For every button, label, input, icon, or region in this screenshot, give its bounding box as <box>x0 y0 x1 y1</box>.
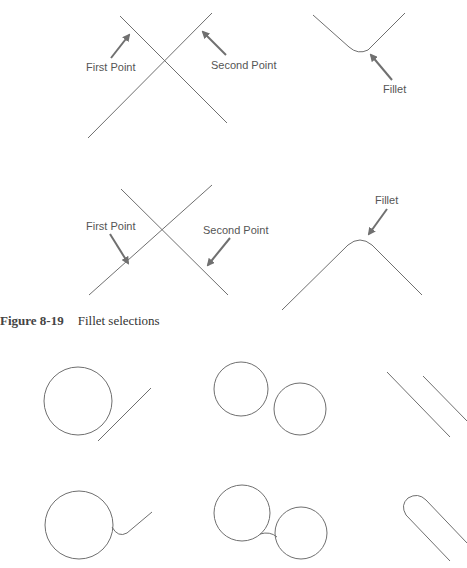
fillet-label: Fillet <box>383 83 406 95</box>
fillet-arrow-icon <box>371 55 392 80</box>
two-circles-after <box>214 485 327 559</box>
second-point-label: Second Point <box>203 224 268 236</box>
first-point-arrow-icon <box>110 234 128 263</box>
first-point-arrow-icon <box>111 35 129 58</box>
fillet-arrow-icon <box>369 209 387 234</box>
crossing-lines-top: First Point Second Point <box>86 13 276 138</box>
parallel-lines-after <box>403 495 467 561</box>
circle-line-before <box>44 367 151 441</box>
figure-caption: Figure 8-19Fillet selections <box>0 313 160 329</box>
fillet-diagram: First Point Second Point Fillet First Po… <box>0 0 467 568</box>
parallel-lines-before <box>387 372 467 437</box>
second-point-arrow-icon <box>208 238 230 265</box>
first-point-label: First Point <box>86 61 136 73</box>
fillet-result-top: Fillet <box>313 13 406 95</box>
fillet-result-middle: Fillet <box>282 194 422 310</box>
second-point-arrow-icon <box>203 32 226 55</box>
first-point-label: First Point <box>86 220 136 232</box>
two-circles-before <box>214 362 326 435</box>
fillet-label: Fillet <box>375 194 398 206</box>
figure-number: Figure 8-19 <box>0 313 64 328</box>
circle-line-after <box>45 491 152 559</box>
figure-title: Fillet selections <box>78 313 160 328</box>
crossing-lines-middle: First Point Second Point <box>86 185 268 295</box>
second-point-label: Second Point <box>211 59 276 71</box>
